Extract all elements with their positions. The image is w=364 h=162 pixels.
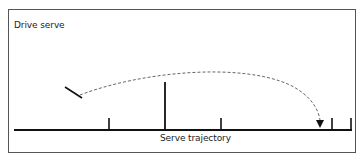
axis-label: Serve trajectory	[160, 133, 231, 143]
racket-icon	[65, 87, 82, 98]
serve-trajectory-path	[80, 72, 320, 120]
arrowhead-down-icon	[316, 120, 324, 128]
